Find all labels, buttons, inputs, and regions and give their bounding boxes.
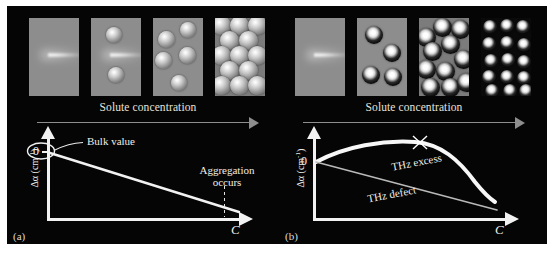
terahertz-streak: [48, 53, 79, 58]
solute-sphere: [501, 53, 515, 67]
solute-sphere: [483, 20, 497, 34]
solute-sphere: [423, 42, 442, 61]
solute-sphere: [482, 70, 496, 84]
arrow-shaft: [37, 122, 250, 123]
solute-sphere: [158, 31, 175, 48]
solute-sphere: [516, 20, 530, 34]
x-axis-label: C: [495, 222, 504, 238]
micrograph-aggregated-ringed-particles: [419, 18, 469, 96]
arrow-head-icon: [515, 117, 525, 129]
solute-sphere: [519, 84, 531, 96]
terahertz-streak: [110, 53, 141, 58]
solute-sphere: [421, 78, 440, 96]
arrow-shaft: [303, 122, 516, 123]
solute-sphere: [365, 26, 383, 44]
panel-tag-b: (b): [285, 230, 298, 242]
solute-sphere: [517, 55, 531, 69]
solute-sphere: [482, 37, 496, 51]
aggregation-occurs-line-2: occurs: [185, 177, 269, 189]
aggregation-occurs-annotation: Aggregation occurs: [185, 165, 269, 188]
micrograph-dilute-solution: [295, 18, 345, 96]
concentration-arrow-b: Solute concentration: [303, 104, 525, 130]
solute-sphere: [155, 52, 172, 69]
plot-a: Δα (cm-1) 0 Bulk value Aggregation occur…: [25, 132, 269, 240]
solute-sphere: [180, 22, 196, 38]
terahertz-streak: [314, 53, 345, 58]
solute-sphere: [171, 75, 187, 91]
micrograph-five-solute-particles: [153, 18, 203, 96]
solute-sphere: [485, 84, 499, 96]
micrograph-four-ringed-particles: [357, 18, 407, 96]
concentration-arrow-label: Solute concentration: [37, 101, 259, 113]
solute-sphere: [500, 36, 514, 50]
solute-sphere: [500, 19, 514, 33]
micrograph-strip-b: [295, 18, 533, 96]
concentration-arrow-a: Solute concentration: [37, 104, 259, 130]
solute-sphere: [362, 66, 380, 84]
solute-sphere: [517, 38, 531, 52]
panel-a: Solute concentration Δα (cm-1) 0 Bulk va…: [7, 6, 279, 244]
solute-sphere: [503, 84, 517, 96]
solute-sphere: [248, 76, 265, 95]
solute-sphere: [484, 54, 498, 68]
solute-sphere: [179, 47, 196, 64]
solute-sphere: [384, 68, 402, 86]
solute-sphere: [383, 44, 401, 62]
bulk-value-circle: [28, 143, 55, 159]
plot-b: Δα (cm-1) 0 THz excess THz defect C: [291, 132, 535, 240]
micrograph-dilute-solution: [29, 18, 79, 96]
micrograph-crowded-ringed-particles: [481, 18, 531, 96]
concentration-arrow-label: Solute concentration: [303, 101, 525, 113]
bulk-value-annotation: Bulk value: [87, 136, 135, 148]
arrow-head-icon: [249, 117, 259, 129]
bulk-value-leader-line: [55, 143, 83, 151]
solute-sphere: [454, 50, 469, 69]
micrograph-two-solute-particles: [91, 18, 141, 96]
solute-sphere: [230, 76, 249, 95]
x-axis-label: C: [231, 222, 240, 238]
solute-sphere: [215, 76, 231, 95]
panel-b: Solute concentration Δα (cm-1) 0 THz exc…: [279, 6, 547, 244]
solute-sphere: [517, 71, 531, 85]
solute-sphere: [419, 60, 436, 79]
aggregation-occurs-line-1: Aggregation: [185, 165, 269, 177]
figure-canvas: Solute concentration Δα (cm-1) 0 Bulk va…: [7, 6, 547, 244]
solute-sphere: [106, 27, 122, 43]
solute-sphere: [457, 73, 469, 92]
aggregation-onset-dashed-line: [224, 186, 225, 217]
solute-sphere: [108, 67, 124, 83]
solute-sphere: [500, 70, 514, 84]
panel-tag-a: (a): [13, 230, 25, 242]
micrograph-densely-packed-particles: [215, 18, 265, 96]
micrograph-strip-a: [29, 18, 267, 96]
